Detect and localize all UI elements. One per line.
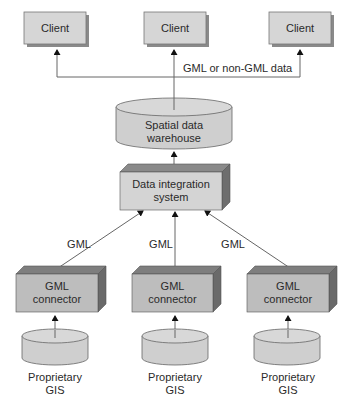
source-cylinder-3 [254, 329, 320, 365]
connector-3-line1: GML [247, 280, 329, 293]
bus-label: GML or non-GML data [183, 62, 303, 75]
connector-3-line2: connector [247, 293, 329, 306]
edge-label-gml-2: GML [146, 238, 176, 251]
integration-label-line1: Data integration [120, 178, 222, 191]
client-label-3: Client [269, 22, 331, 35]
integration-label-line2: system [120, 191, 222, 204]
architecture-diagram: Client Client Client GML or non-GML data… [0, 0, 353, 407]
warehouse-label-line1: Spatial data [116, 119, 232, 132]
source-2-line1: Proprietary [130, 371, 220, 384]
source-2-line2: GIS [130, 384, 220, 397]
client-label-1: Client [24, 22, 86, 35]
edge-label-gml-3: GML [218, 238, 248, 251]
connector-1-line2: connector [16, 293, 98, 306]
source-1-line1: Proprietary [10, 371, 100, 384]
source-cylinder-2 [142, 329, 208, 365]
warehouse-label-line2: warehouse [116, 132, 232, 145]
source-3-line1: Proprietary [243, 371, 333, 384]
source-3-line2: GIS [243, 384, 333, 397]
connector-2-line2: connector [132, 293, 213, 306]
client-label-2: Client [144, 22, 206, 35]
source-cylinder-1 [22, 329, 88, 365]
connector-2-line1: GML [132, 280, 213, 293]
source-1-line2: GIS [10, 384, 100, 397]
edge-label-gml-1: GML [64, 238, 94, 251]
connector-1-line1: GML [16, 280, 98, 293]
